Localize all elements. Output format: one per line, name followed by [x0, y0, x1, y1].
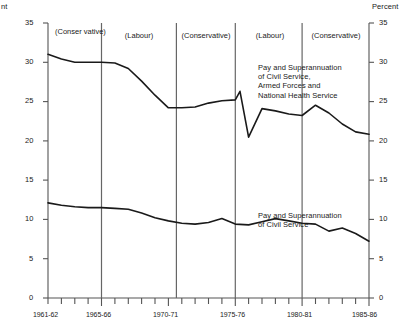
x-axis-ticks [48, 298, 369, 306]
ytick-left-25: 25 [25, 96, 33, 105]
period-label-labour-1: (Labour) [107, 32, 171, 41]
left-axis-title: nt [1, 2, 7, 11]
lower-series-label: Pay and Superannuation of Civil Service [258, 211, 342, 229]
period-label-conservative-2: (Conservative) [178, 32, 234, 41]
right-axis-ticks [369, 23, 374, 298]
xtick-1965-66: 1965-66 [86, 311, 111, 318]
ytick-left-30: 30 [25, 57, 33, 66]
ytick-right-5: 5 [379, 254, 383, 263]
xtick-1961-62: 1961-62 [33, 311, 58, 318]
upper-series-label: Pay and Superannuation of Civil Service,… [258, 63, 342, 100]
xtick-1970-71: 1970-71 [153, 311, 178, 318]
ytick-left-5: 5 [29, 254, 33, 263]
xtick-1985-86: 1985-86 [352, 311, 377, 318]
ytick-left-15: 15 [25, 175, 33, 184]
xtick-1980-81: 1980-81 [287, 311, 312, 318]
period-label-conservative-3: (Conservative) [304, 32, 368, 41]
period-label-labour-2: (Labour) [239, 32, 301, 41]
ytick-right-0: 0 [379, 293, 383, 302]
ytick-left-10: 10 [25, 214, 33, 223]
ytick-right-35: 35 [379, 18, 387, 27]
chart-plot-area [0, 0, 413, 335]
ytick-right-10: 10 [379, 214, 387, 223]
ytick-left-35: 35 [25, 18, 33, 27]
percent-of-expenditure-line-chart: nt Percent 35 30 25 20 15 10 5 0 35 30 2… [0, 0, 413, 335]
right-axis-title: Percent [372, 2, 399, 11]
left-axis-ticks [43, 23, 48, 298]
ytick-left-0: 0 [29, 293, 33, 302]
period-label-conservative-1: (Conser vative) [55, 28, 99, 37]
ytick-right-20: 20 [379, 136, 387, 145]
ytick-right-15: 15 [379, 175, 387, 184]
xtick-1975-76: 1975-76 [220, 311, 245, 318]
ytick-left-20: 20 [25, 136, 33, 145]
ytick-right-30: 30 [379, 57, 387, 66]
ytick-right-25: 25 [379, 96, 387, 105]
